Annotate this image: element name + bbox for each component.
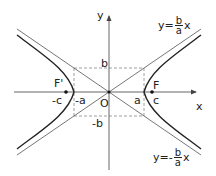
focus-right-label: F	[153, 80, 159, 91]
x-axis-label: x	[196, 101, 203, 112]
focus-left-label: F'	[54, 78, 63, 89]
focus-left-point	[64, 90, 68, 94]
focus-left-coord: -c	[52, 95, 62, 106]
axes	[14, 16, 196, 170]
hyperbola-diagram: y x O b -b a -a F c F' -c y=bax y=-bax	[0, 0, 216, 176]
asymptote-positive-equation: y=bax	[158, 16, 191, 35]
asymptote-negative-equation: y=-bax	[153, 148, 190, 167]
neg-b-label: -b	[92, 118, 103, 129]
a-label: a	[134, 95, 141, 106]
focus-right-coord: c	[153, 95, 159, 106]
y-axis-label: y	[97, 10, 104, 21]
b-label: b	[101, 58, 108, 69]
origin-point	[108, 91, 111, 94]
origin-label: O	[100, 98, 109, 109]
neg-a-label: -a	[75, 95, 86, 106]
